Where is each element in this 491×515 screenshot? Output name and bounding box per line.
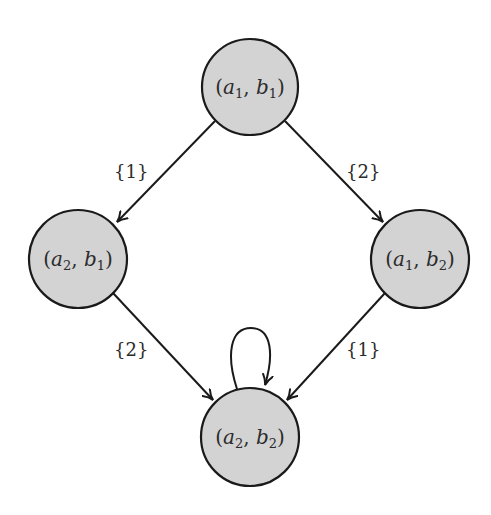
edges <box>113 121 385 400</box>
edge-labels: {1} {2} {2} {1} <box>114 161 380 360</box>
node-a2b2: (a2, b2) <box>201 388 299 486</box>
node-a1b2: (a1, b2) <box>371 210 469 308</box>
edge-label-a1b1-a2b1: {1} <box>114 161 148 182</box>
self-loop-a2b2 <box>231 328 270 389</box>
node-a1b1: (a1, b1) <box>202 39 298 135</box>
edge-label-a1b2-a2b2: {1} <box>346 339 380 360</box>
edge-label-a1b1-a1b2: {2} <box>346 161 380 182</box>
node-a2b1: (a2, b1) <box>29 210 127 308</box>
edge-label-a2b1-a2b2: {2} <box>114 339 148 360</box>
state-diagram: {1} {2} {2} {1} (a1, b1) (a2, b1) (a1, b… <box>0 0 491 515</box>
